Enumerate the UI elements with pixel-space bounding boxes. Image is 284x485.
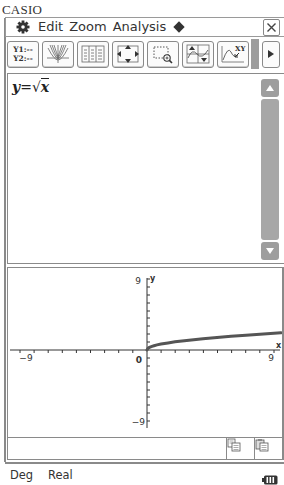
zoom-box-button[interactable] <box>147 41 179 68</box>
editor-scrollbar[interactable] <box>261 79 279 260</box>
y-max-label: 9 <box>135 276 141 286</box>
graph-editor-button[interactable]: Y1:--Y2:-- <box>7 41 39 68</box>
triangle-down-icon <box>265 247 275 255</box>
number-mode[interactable]: Real <box>48 467 73 482</box>
menu-analysis[interactable]: Analysis <box>113 18 167 36</box>
close-icon <box>266 22 277 33</box>
sqrt-symbol: √ <box>32 79 41 95</box>
graph-plot[interactable]: 9 y x −9 9 0 −9 <box>8 268 282 438</box>
menu-zoom[interactable]: Zoom <box>69 18 106 36</box>
toolbar: Y1:--Y2:-- <box>5 39 284 69</box>
y1y2-icon: Y1:--Y2:-- <box>13 45 33 63</box>
scroll-track[interactable] <box>261 99 279 240</box>
graph-pane[interactable]: 9 y x −9 9 0 −9 <box>7 267 284 460</box>
x-axis-label: x <box>276 341 282 350</box>
formula-lhs: y <box>12 79 20 95</box>
paste-button[interactable] <box>254 438 282 459</box>
y-axis-label: y <box>150 274 156 283</box>
svg-text:XY: XY <box>235 44 246 53</box>
device-brand: CASIO <box>2 2 42 18</box>
menu-bar: Edit Zoom Analysis <box>5 17 284 37</box>
table-icon <box>81 45 105 63</box>
battery-icon <box>262 470 278 485</box>
graph-input-strip <box>8 437 282 459</box>
y-min-label: −9 <box>132 417 146 427</box>
formula-radicand: x <box>41 78 49 95</box>
function-curve <box>147 333 281 350</box>
paste-icon <box>255 438 269 452</box>
zoom-box-icon <box>151 44 175 64</box>
x-max-label: 9 <box>268 353 274 363</box>
copy-icon <box>227 438 241 452</box>
toolbar-separator <box>251 39 259 69</box>
triangle-up-icon <box>265 84 275 92</box>
triangle-right-icon <box>267 49 275 59</box>
view-window-icon <box>186 44 210 64</box>
function-formula[interactable]: y=√x <box>12 79 49 95</box>
view-window-button[interactable] <box>182 41 214 68</box>
menu-edit[interactable]: Edit <box>38 18 63 36</box>
scroll-down-button[interactable] <box>261 242 279 260</box>
pan-button[interactable] <box>112 41 144 68</box>
status-bar: Deg Real <box>5 462 284 485</box>
table-button[interactable] <box>77 41 109 68</box>
graph-editor-pane[interactable]: y=√x <box>7 73 284 264</box>
trace-xy-icon: XY <box>220 44 246 64</box>
copy-button[interactable] <box>226 438 254 459</box>
formula-equals: = <box>20 79 32 95</box>
diamond-icon[interactable] <box>174 21 185 32</box>
trace-button[interactable]: XY <box>217 41 249 68</box>
close-button[interactable] <box>263 19 280 36</box>
gear-icon[interactable] <box>14 18 32 36</box>
toolbar-next-button[interactable] <box>262 41 280 68</box>
pan-arrows-icon <box>116 44 140 64</box>
x-min-label: −9 <box>19 353 33 363</box>
scroll-up-button[interactable] <box>261 79 279 97</box>
origin-label: 0 <box>136 355 142 365</box>
graph-family-button[interactable] <box>42 41 74 68</box>
graph-family-icon <box>46 44 70 64</box>
angle-mode[interactable]: Deg <box>10 467 33 482</box>
